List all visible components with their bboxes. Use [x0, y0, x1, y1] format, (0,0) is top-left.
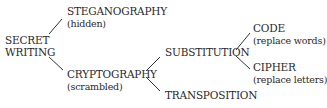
edge-secret-to-steganography	[49, 19, 62, 34]
edge-secret-to-cryptography	[49, 57, 63, 70]
note-cipher: (replace letters)	[253, 74, 327, 85]
node-steganography: STEGANOGRAPHY	[67, 6, 167, 17]
node-substitution: SUBSTITUTION	[165, 47, 250, 58]
note-steganography: (hidden)	[67, 18, 106, 29]
note-code: (replace words)	[253, 35, 326, 46]
node-cipher: CIPHER	[253, 62, 296, 73]
node-cryptography: CRYPTOGRAPHY	[67, 69, 157, 80]
node-secret-line1: SECRET	[5, 35, 49, 46]
node-transposition: TRANSPOSITION	[165, 90, 257, 101]
note-cryptography: (scrambled)	[67, 81, 122, 92]
node-code: CODE	[253, 23, 285, 34]
node-secret-line2: WRITING	[5, 47, 55, 58]
